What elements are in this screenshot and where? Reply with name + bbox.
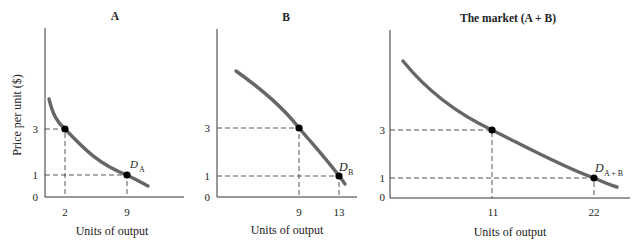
panel-market-guide-3 (390, 130, 492, 198)
panel-a-guide-1 (45, 175, 127, 197)
panel-b-point-9-3 (295, 124, 302, 131)
panel-a-ytick-3: 3 (33, 123, 39, 135)
panel-a-title: A (111, 10, 120, 22)
panel-b-ytick-0: 0 (205, 191, 211, 203)
panel-a-x-axis-label: Units of output (76, 224, 149, 238)
panel-b-demand-curve (236, 71, 345, 184)
panel-b-curve-label: D (338, 160, 348, 174)
panel-a-point-2-3 (61, 125, 68, 132)
panel-a-ytick-1: 1 (33, 169, 39, 181)
panel-a-xtick-2: 2 (62, 206, 68, 218)
panel-b-guide-1 (217, 176, 339, 197)
panel-market-ytick-3: 3 (380, 124, 386, 136)
panel-b: B D B 3 1 0 9 13 Units of output (205, 11, 358, 237)
panel-a: A Price per unit ($) D A 3 1 0 2 9 Units… (10, 10, 184, 238)
panel-market-point-11-3 (488, 126, 495, 133)
panel-market-xtick-11: 11 (488, 206, 499, 218)
panel-b-title: B (282, 11, 290, 23)
panel-b-xtick-9: 9 (296, 206, 302, 218)
panel-a-curve-label: D (129, 158, 138, 170)
panel-b-xtick-13: 13 (334, 206, 346, 218)
panel-market-curve-label: D (594, 161, 604, 175)
panel-b-ytick-1: 1 (205, 170, 211, 182)
panel-market-title: The market (A + B) (460, 12, 556, 25)
panel-a-demand-curve (49, 99, 148, 186)
panel-market-demand-curve (403, 61, 617, 187)
panel-a-guide-3 (45, 129, 65, 197)
panel-b-ytick-3: 3 (205, 122, 211, 134)
panel-a-ytick-0: 0 (33, 191, 39, 203)
panel-market-ytick-0: 0 (380, 191, 386, 203)
panel-market-x-axis-label: Units of output (474, 225, 547, 239)
panel-market-ytick-1: 1 (380, 172, 386, 184)
demand-curves-figure: A Price per unit ($) D A 3 1 0 2 9 Units… (0, 0, 642, 249)
panel-market: The market (A + B) D A + B 3 1 0 11 22 U… (380, 12, 631, 239)
panel-b-x-axis-label: Units of output (251, 223, 324, 237)
panel-a-xtick-9: 9 (124, 206, 130, 218)
panel-b-guide-3 (217, 128, 299, 197)
panel-market-curve-label-sub: A + B (604, 169, 623, 178)
panel-market-xtick-22: 22 (589, 206, 600, 218)
panel-a-point-9-1 (123, 171, 130, 178)
panel-b-curve-label-sub: B (348, 168, 353, 177)
panel-market-point-22-1 (590, 174, 597, 181)
panel-a-curve-label-sub: A (139, 165, 145, 174)
y-axis-label: Price per unit ($) (10, 74, 24, 156)
